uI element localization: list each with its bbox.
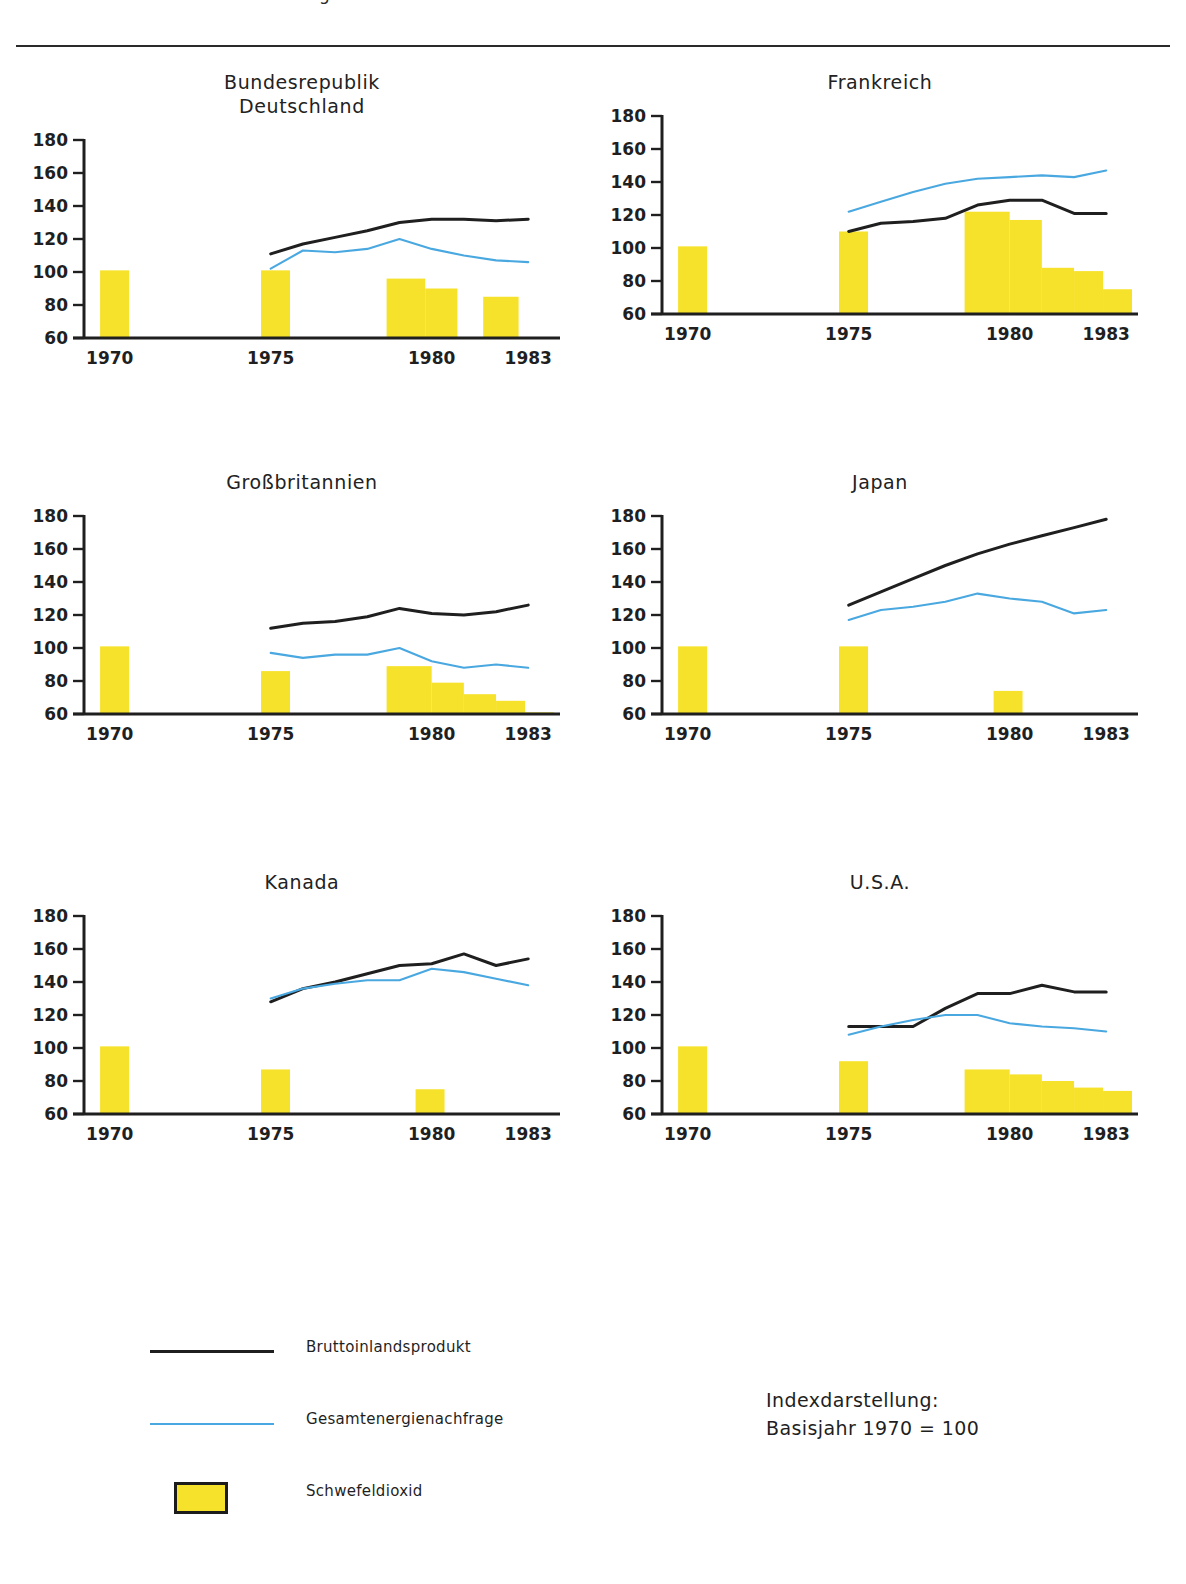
x-tick-label-1975: 1975 [247,724,294,744]
y-tick-label-140: 140 [611,972,647,992]
y-tick-label-60: 60 [622,304,646,324]
yellow-square-icon [174,1482,228,1514]
so2-bar-4 [1042,1081,1074,1114]
y-tick-label-80: 80 [44,671,68,691]
chart-panel-0: Bundesrepublik Deutschland 6080100120140… [22,70,582,380]
y-tick-label-120: 120 [33,605,69,625]
energy-line [849,594,1106,620]
legend-item-energy: Gesamtenergienachfrage [148,1392,608,1464]
header-divider [16,45,1170,47]
chart-panel-1: Frankreich 60801001201401601801970197519… [600,70,1160,380]
legend-key-gdp-line [148,1336,276,1366]
energy-line [271,648,529,668]
x-tick-label-1983: 1983 [1083,1124,1130,1144]
y-tick-label-80: 80 [622,271,646,291]
clipped-header-text: Abbildung [0,0,1186,4]
legend-label-so2: Schwefeldioxid [306,1482,423,1500]
chart-panel-4: Kanada 608010012014016018019701975198019… [22,870,582,1180]
legend-label-energy: Gesamtenergienachfrage [306,1410,504,1428]
plot-area-2: 60801001201401601801970197519801983 [22,504,562,754]
chart-title-4: Kanada [52,870,552,894]
so2-bar-5 [1074,271,1103,314]
plot-area-5: 60801001201401601801970197519801983 [600,904,1140,1154]
y-tick-label-160: 160 [33,539,69,559]
x-tick-label-1970: 1970 [664,724,711,744]
y-tick-label-100: 100 [611,1038,647,1058]
so2-bar-2 [387,666,432,714]
y-tick-label-140: 140 [611,572,647,592]
y-tick-label-140: 140 [33,196,69,216]
x-tick-label-1975: 1975 [825,724,872,744]
x-tick-label-1975: 1975 [247,1124,294,1144]
so2-bar-0 [678,1046,707,1114]
so2-bar-4 [464,694,496,714]
black-line-icon [150,1350,274,1353]
y-tick-label-140: 140 [611,172,647,192]
so2-bar-0 [100,270,129,338]
chart-title-0: Bundesrepublik Deutschland [52,70,552,118]
y-tick-label-80: 80 [622,1071,646,1091]
x-tick-label-1980: 1980 [986,724,1033,744]
x-tick-label-1980: 1980 [408,724,455,744]
y-tick-label-180: 180 [611,906,647,926]
x-tick-label-1980: 1980 [408,1124,455,1144]
so2-bar-1 [261,270,290,338]
so2-bar-1 [261,671,290,714]
x-tick-label-1983: 1983 [1083,324,1130,344]
y-tick-label-60: 60 [622,1104,646,1124]
y-tick-label-180: 180 [33,130,69,150]
so2-bar-4 [483,297,518,338]
chart-panel-2: Großbritannien 6080100120140160180197019… [22,470,582,780]
index-note: Indexdarstellung: Basisjahr 1970 = 100 [766,1386,979,1442]
x-tick-label-1975: 1975 [247,348,294,368]
x-tick-label-1970: 1970 [86,348,133,368]
so2-bar-6 [1103,1091,1132,1114]
y-tick-label-140: 140 [33,972,69,992]
y-tick-label-60: 60 [44,1104,68,1124]
energy-line [271,969,529,999]
legend-label-gdp: Bruttoinlandsprodukt [306,1338,471,1356]
so2-bar-0 [678,246,707,314]
y-tick-label-60: 60 [44,328,68,348]
so2-bar-1 [839,232,868,315]
y-tick-label-60: 60 [622,704,646,724]
so2-bar-1 [839,646,868,714]
plot-area-0: 60801001201401601801970197519801983 [22,128,562,378]
y-tick-label-80: 80 [44,295,68,315]
so2-bar-2 [994,691,1023,714]
y-tick-label-80: 80 [44,1071,68,1091]
plot-area-1: 60801001201401601801970197519801983 [600,104,1140,354]
so2-bar-2 [965,212,1010,314]
plot-area-4: 60801001201401601801970197519801983 [22,904,562,1154]
chart-panel-3: Japan 6080100120140160180197019751980198… [600,470,1160,780]
y-tick-label-100: 100 [33,1038,69,1058]
y-tick-label-100: 100 [33,638,69,658]
x-tick-label-1983: 1983 [505,1124,552,1144]
clipped-header: Abbildung [0,0,1186,6]
so2-bar-6 [1103,289,1132,314]
legend-item-gdp: Bruttoinlandsprodukt [148,1320,608,1392]
x-tick-label-1970: 1970 [664,1124,711,1144]
chart-title-1: Frankreich [630,70,1130,94]
x-tick-label-1980: 1980 [408,348,455,368]
y-tick-label-60: 60 [44,704,68,724]
chart-title-2: Großbritannien [52,470,552,494]
blue-line-icon [150,1423,274,1425]
y-tick-label-160: 160 [33,939,69,959]
x-tick-label-1970: 1970 [86,1124,133,1144]
y-tick-label-140: 140 [33,572,69,592]
y-tick-label-180: 180 [611,106,647,126]
so2-bar-4 [1042,268,1074,314]
y-tick-label-180: 180 [611,506,647,526]
y-tick-label-160: 160 [611,139,647,159]
gdp-line [271,219,529,254]
y-tick-label-160: 160 [611,539,647,559]
x-tick-label-1970: 1970 [664,324,711,344]
so2-bar-2 [387,279,426,338]
so2-bar-5 [1074,1088,1103,1114]
y-tick-label-100: 100 [611,238,647,258]
x-tick-label-1980: 1980 [986,324,1033,344]
gdp-line [271,605,529,628]
y-tick-label-100: 100 [611,638,647,658]
so2-bar-2 [416,1089,445,1114]
